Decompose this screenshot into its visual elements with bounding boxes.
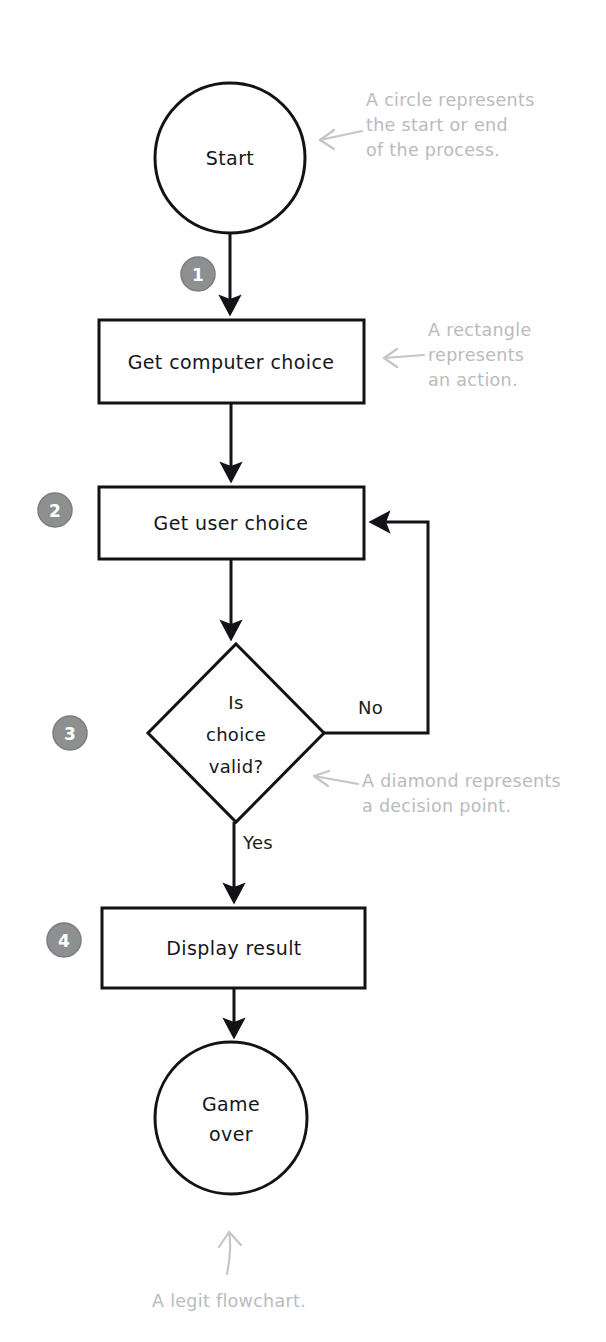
annotation-arrow-circle-icon — [320, 130, 362, 149]
node-get-user-choice[interactable]: Get user choice — [99, 487, 364, 559]
badge-2-number: 2 — [49, 501, 61, 521]
step-badge-2[interactable]: 2 — [38, 493, 72, 527]
node-get-computer-choice[interactable]: Get computer choice — [99, 320, 364, 403]
step-badge-4[interactable]: 4 — [47, 923, 81, 957]
decision-label-line-3: valid? — [209, 756, 263, 777]
edge-label-no: No — [358, 697, 383, 718]
decision-label-line-2: choice — [206, 724, 266, 745]
flowchart-caption: A legit flowchart. — [152, 1291, 306, 1311]
flowchart-canvas: Start Get computer choice Get user choic… — [0, 0, 606, 1342]
annotation-rectangle-note: A rectangle represents an action. — [428, 318, 531, 393]
flowchart-page: Start Get computer choice Get user choic… — [0, 0, 606, 1342]
annotation-arrow-caption-icon — [219, 1232, 241, 1274]
start-label: Start — [206, 147, 254, 169]
game-over-circle-shape — [155, 1042, 307, 1194]
annotation-arrow-rectangle-icon — [384, 349, 424, 367]
game-over-label-line-1: Game — [202, 1093, 260, 1115]
node-display-result[interactable]: Display result — [102, 908, 365, 988]
display-result-label: Display result — [166, 937, 301, 959]
node-start[interactable]: Start — [155, 83, 305, 233]
step-badge-1[interactable]: 1 — [181, 257, 215, 291]
get-computer-choice-label: Get computer choice — [128, 351, 335, 373]
get-user-choice-label: Get user choice — [154, 512, 309, 534]
game-over-label-line-2: over — [209, 1123, 253, 1145]
decision-label-line-1: Is — [228, 692, 243, 713]
node-game-over[interactable]: Game over — [155, 1042, 307, 1194]
edge-label-yes: Yes — [242, 832, 273, 853]
annotation-arrow-diamond-icon — [314, 771, 358, 786]
node-is-choice-valid[interactable]: Is choice valid? — [148, 644, 324, 822]
badge-3-number: 3 — [64, 724, 76, 744]
step-badge-3[interactable]: 3 — [53, 716, 87, 750]
badge-1-number: 1 — [192, 265, 204, 285]
badge-4-number: 4 — [58, 931, 70, 951]
annotation-circle-note: A circle represents the start or end of … — [366, 88, 535, 163]
annotation-diamond-note: A diamond represents a decision point. — [362, 769, 561, 819]
